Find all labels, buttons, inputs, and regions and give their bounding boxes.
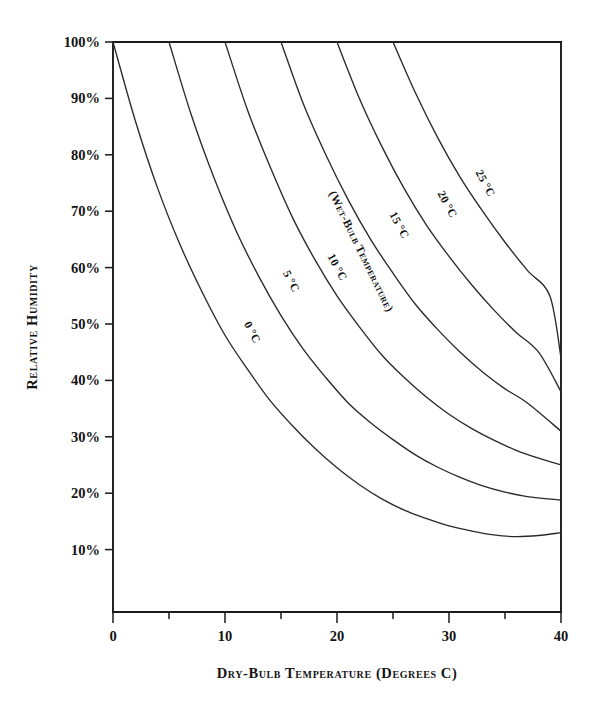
x-tick-label-30: 30 (442, 628, 457, 644)
y-tick-label-80: 80% (71, 147, 100, 163)
wet-bulb-curve-25c (393, 42, 561, 358)
x-tick-label-10: 10 (218, 628, 233, 644)
y-tick-label-20: 20% (71, 485, 100, 501)
y-tick-label-60: 60% (71, 260, 100, 276)
y-tick-label-40: 40% (71, 372, 100, 388)
y-axis-ticks (105, 42, 113, 550)
plot-frame (113, 42, 561, 612)
curve-label-20c: 20 °C (435, 189, 459, 220)
y-axis-tick-labels: 100% 90% 80% 70% 60% 50% 40% 30% 20% 10% (64, 34, 100, 558)
wet-bulb-curve-0c (113, 42, 561, 537)
curve-label-10c: 10 °C (325, 252, 349, 283)
psychrometric-chart-page: 100% 90% 80% 70% 60% 50% 40% 30% 20% 10%… (0, 0, 604, 709)
y-tick-label-50: 50% (71, 316, 100, 332)
wet-bulb-curve-10c (225, 42, 561, 465)
x-tick-label-40: 40 (554, 628, 569, 644)
x-axis-tick-labels: 0 10 20 30 40 (109, 628, 568, 644)
curve-label-0c: 0 °C (242, 319, 263, 345)
y-tick-label-70: 70% (71, 203, 100, 219)
wet-bulb-curve-15c (281, 42, 561, 431)
x-tick-label-20: 20 (330, 628, 345, 644)
y-tick-label-30: 30% (71, 429, 100, 445)
curve-label-15c: 15 °C (387, 210, 411, 241)
curve-label-group: 0 °C 5 °C 10 °C 15 °C 20 °C 25 °C (Wet-B… (242, 168, 498, 345)
y-tick-label-90: 90% (71, 90, 100, 106)
x-axis-title: Dry-Bulb Temperature (Degrees C) (217, 665, 458, 682)
y-axis-title: Relative Humidity (24, 264, 40, 390)
y-tick-label-100: 100% (64, 34, 100, 50)
wet-bulb-curve-group (113, 42, 561, 537)
chart-canvas: 100% 90% 80% 70% 60% 50% 40% 30% 20% 10%… (0, 0, 604, 709)
x-tick-label-0: 0 (109, 628, 116, 644)
curve-label-25c: 25 °C (473, 168, 497, 199)
curve-label-5c: 5 °C (281, 268, 302, 294)
x-axis-ticks (113, 612, 561, 623)
y-tick-label-10: 10% (71, 542, 100, 558)
